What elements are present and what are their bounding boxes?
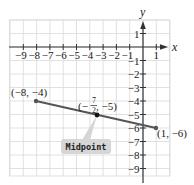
point-b-label: (1, −6) bbox=[157, 127, 187, 140]
axes bbox=[9, 21, 168, 183]
svg-text:−3: −3 bbox=[128, 82, 140, 94]
svg-text:−6: −6 bbox=[55, 49, 67, 61]
coordinate-plane: −9−8−7−6−5−4−3−2−111−1−2−3−4−5−6−7−8−9 M… bbox=[0, 0, 194, 185]
midpoint-callout-label: Midpoint bbox=[66, 142, 107, 152]
svg-text:−5: −5 bbox=[128, 109, 140, 121]
svg-text:−9: −9 bbox=[15, 49, 27, 61]
svg-text:1: 1 bbox=[134, 28, 140, 40]
svg-text:−9: −9 bbox=[128, 163, 140, 175]
svg-text:−5: −5 bbox=[68, 49, 80, 61]
svg-text:−1: −1 bbox=[128, 55, 140, 67]
svg-text:−4: −4 bbox=[82, 49, 94, 61]
svg-text:−8: −8 bbox=[28, 49, 40, 61]
midpoint-label-open: (− bbox=[78, 100, 88, 113]
svg-text:−3: −3 bbox=[95, 49, 107, 61]
svg-text:1: 1 bbox=[154, 49, 160, 61]
svg-text:−2: −2 bbox=[108, 49, 120, 61]
svg-text:−2: −2 bbox=[128, 68, 140, 80]
svg-text:−7: −7 bbox=[42, 49, 54, 61]
point-a-label: (−8, −4) bbox=[11, 86, 48, 99]
svg-text:−8: −8 bbox=[128, 149, 140, 161]
point-a bbox=[34, 99, 38, 103]
y-axis-label: y bbox=[139, 5, 146, 19]
svg-text:−7: −7 bbox=[128, 136, 140, 148]
x-axis-label: x bbox=[171, 40, 178, 54]
svg-text:−4: −4 bbox=[128, 95, 140, 107]
midpoint-label-close: , −5) bbox=[96, 100, 117, 113]
